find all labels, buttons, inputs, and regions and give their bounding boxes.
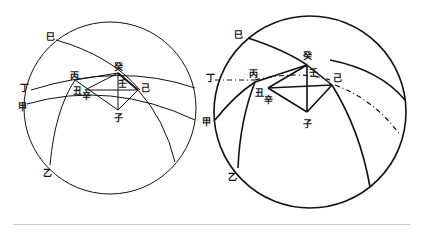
left-diagram-lines	[0, 0, 210, 232]
label-si: 巳	[234, 31, 243, 40]
right-spherical-diagram: 巳 癸 丙 丁 甲 丑 辛 壬 己 子 乙	[210, 0, 421, 232]
label-ding: 丁	[206, 74, 215, 83]
label-ding: 丁	[20, 84, 29, 93]
label-ren: 壬	[309, 69, 318, 78]
label-yi: 乙	[228, 173, 237, 182]
label-yi: 乙	[43, 169, 52, 178]
label-ji: 己	[333, 74, 342, 83]
label-zi: 子	[303, 120, 312, 129]
label-jia: 甲	[18, 103, 27, 112]
label-gui: 癸	[303, 52, 312, 61]
label-si: 巳	[46, 33, 55, 42]
label-ren: 壬	[118, 80, 127, 89]
label-ji: 己	[141, 84, 150, 93]
left-spherical-diagram: 巳 癸 丙 丁 甲 丑 辛 壬 己 子 乙	[0, 0, 210, 232]
label-bing: 丙	[249, 70, 258, 79]
label-jia: 甲	[202, 118, 211, 127]
label-xin: 辛	[264, 96, 273, 105]
label-gui: 癸	[114, 63, 123, 72]
label-xin: 辛	[82, 92, 91, 101]
label-bing: 丙	[70, 72, 79, 81]
bottom-divider	[13, 224, 410, 225]
label-chou: 丑	[255, 89, 264, 98]
label-zi: 子	[114, 114, 123, 123]
label-chou: 丑	[73, 87, 82, 96]
